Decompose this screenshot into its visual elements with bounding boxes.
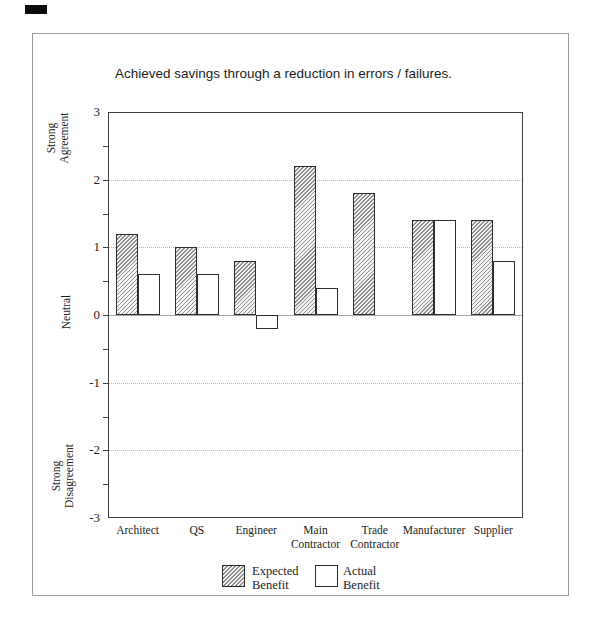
gridline	[109, 180, 522, 181]
bar-expected-1	[116, 234, 138, 315]
y-tick-label: 0	[70, 307, 100, 323]
bar-expected-7	[471, 220, 493, 315]
bar-expected-6	[412, 220, 434, 315]
y-tick-label: -1	[70, 375, 100, 391]
scan-artifact-mark	[25, 5, 47, 14]
y-tick-label: 1	[70, 239, 100, 255]
legend-swatch-expected	[222, 565, 245, 587]
chart-title: Achieved savings through a reduction in …	[115, 66, 515, 81]
y-tick-label: 2	[70, 172, 100, 188]
y-axis-tick	[103, 180, 108, 181]
y-axis-tick	[103, 214, 108, 215]
y-axis-tick	[103, 281, 108, 282]
y-axis-tick	[103, 417, 108, 418]
y-axis-tick	[103, 146, 108, 147]
bar-actual-7	[493, 261, 515, 315]
legend-swatch-actual	[315, 565, 338, 587]
gridline	[109, 247, 522, 248]
gridline	[109, 383, 522, 384]
bar-expected-3	[234, 261, 256, 315]
category-label: Supplier	[453, 524, 533, 538]
bar-actual-1	[138, 274, 160, 315]
y-axis-tick	[103, 450, 108, 451]
legend-label-actual: Actual Benefit	[343, 564, 380, 592]
bar-expected-2	[175, 247, 197, 315]
bar-actual-3	[256, 315, 278, 329]
y-axis-tick	[103, 247, 108, 248]
y-axis-tick	[103, 315, 108, 316]
gridline	[109, 450, 522, 451]
bar-expected-4	[294, 166, 316, 315]
y-region-label: Neutral	[60, 294, 73, 328]
bar-actual-2	[197, 274, 219, 315]
bar-actual-4	[316, 288, 338, 315]
y-region-label: Strong Disagreement	[50, 444, 76, 508]
bar-expected-5	[353, 193, 375, 315]
y-tick-label: -3	[70, 510, 100, 526]
zero-axis-line	[109, 315, 522, 316]
y-axis-tick	[103, 484, 108, 485]
scanned-figure-page: Achieved savings through a reduction in …	[0, 0, 603, 628]
y-tick-label: 3	[70, 104, 100, 120]
legend-label-expected: Expected Benefit	[252, 564, 299, 592]
bar-actual-6	[434, 220, 456, 315]
y-region-label: Strong Agreement	[45, 112, 71, 163]
y-axis-tick	[103, 349, 108, 350]
y-axis-tick	[103, 383, 108, 384]
